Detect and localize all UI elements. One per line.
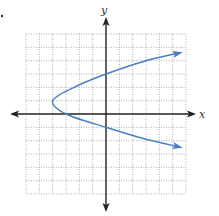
parabola-graph: x y — [0, 0, 219, 216]
parabola-curve — [52, 51, 182, 149]
y-axis-label: y — [100, 4, 108, 17]
x-axis-label: x — [199, 108, 206, 121]
curve-path — [52, 53, 180, 148]
corner-dot — [1, 15, 3, 17]
